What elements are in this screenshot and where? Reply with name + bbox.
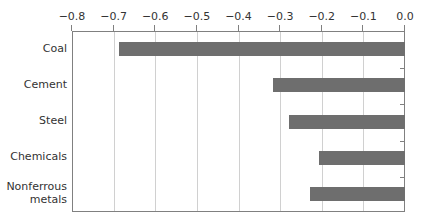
gridline bbox=[280, 32, 281, 211]
bar-nonferrous-metals bbox=[310, 187, 405, 201]
x-tick-label: −0.6 bbox=[142, 10, 169, 23]
y-tick bbox=[400, 68, 405, 69]
y-category-label: Nonferrousmetals bbox=[6, 180, 67, 206]
gridline bbox=[155, 32, 156, 211]
y-category-label: Coal bbox=[43, 42, 67, 55]
y-tick bbox=[400, 104, 405, 105]
y-category-label: Steel bbox=[39, 114, 67, 127]
x-tick-label: −0.4 bbox=[225, 10, 252, 23]
x-tick-label: −0.1 bbox=[350, 10, 377, 23]
gridline bbox=[114, 32, 115, 211]
y-tick bbox=[400, 177, 405, 178]
x-tick bbox=[113, 25, 114, 31]
x-tick bbox=[404, 25, 405, 31]
x-tick bbox=[154, 25, 155, 31]
x-tick-label: −0.7 bbox=[100, 10, 127, 23]
x-tick bbox=[238, 25, 239, 31]
x-tick-label: −0.2 bbox=[308, 10, 335, 23]
bar-coal bbox=[119, 42, 405, 56]
x-tick-label: −0.5 bbox=[184, 10, 211, 23]
bar-chemicals bbox=[319, 151, 405, 165]
gridline bbox=[197, 32, 198, 211]
x-tick bbox=[196, 25, 197, 31]
plot-area bbox=[72, 31, 405, 212]
bar-cement bbox=[273, 78, 405, 92]
x-tick-label: −0.3 bbox=[267, 10, 294, 23]
y-category-label: Cement bbox=[24, 78, 67, 91]
x-tick bbox=[279, 25, 280, 31]
x-tick bbox=[71, 25, 72, 31]
x-tick bbox=[321, 25, 322, 31]
gridline bbox=[239, 32, 240, 211]
y-category-label: Chemicals bbox=[10, 150, 67, 163]
bar-steel bbox=[289, 115, 405, 129]
x-tick-label: −0.8 bbox=[59, 10, 86, 23]
x-tick bbox=[362, 25, 363, 31]
y-tick bbox=[400, 141, 405, 142]
x-tick-label: 0.0 bbox=[396, 10, 414, 23]
